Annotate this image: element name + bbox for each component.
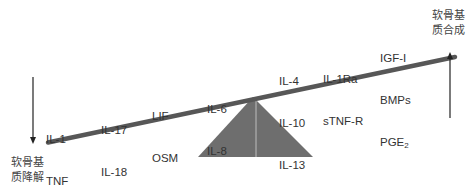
cytokine-label: IL-18: [101, 165, 127, 179]
cytokine-label: IL-1Ra: [323, 72, 363, 86]
cytokine-label-base: PGE: [380, 136, 404, 148]
cytokine-label: IL-13: [279, 158, 305, 172]
label-line: 软骨基: [432, 8, 465, 23]
cytokine-group-il6-il8: IL-6 IL-8: [207, 74, 227, 186]
cytokine-label: IL-17: [101, 123, 127, 137]
cytokine-group-lif-osm: LIF OSM: [152, 81, 178, 193]
down-arrow-icon: [30, 77, 36, 144]
cytokine-label: IL-6: [207, 102, 227, 116]
cytokine-label: sTNF-R: [323, 114, 363, 128]
cytokine-label: IL-8: [207, 144, 227, 158]
cytokine-label: TNF: [46, 174, 68, 188]
label-line: 质合成: [432, 23, 465, 38]
cytokine-label: IL-1: [46, 132, 68, 146]
cytokine-group-igf-bmps-pge2: IGF-I BMPs PGE2: [380, 23, 411, 181]
label-line: 质降解: [11, 170, 44, 185]
cytokine-group-il17-il18: IL-17 IL-18: [101, 95, 127, 196]
cytokine-group-il1-tnf: IL-1 TNF: [46, 104, 68, 196]
up-arrow-icon: [447, 52, 453, 118]
cytokine-group-il4-il10-il13: IL-4 IL-10 IL-13: [279, 46, 305, 196]
cytokine-group-il1ra-stnfr: IL-1Ra sTNF-R: [323, 44, 363, 156]
cytokine-label: OSM: [152, 151, 178, 165]
cytokine-label-subscript: 2: [404, 141, 408, 150]
cytokine-label: IGF-I: [380, 51, 411, 65]
cartilage-degradation-label: 软骨基 质降解: [11, 155, 44, 185]
label-line: 软骨基: [11, 155, 44, 170]
cytokine-label: PGE2: [380, 135, 411, 153]
cytokine-label: IL-10: [279, 116, 305, 130]
cytokine-label: LIF: [152, 109, 178, 123]
cartilage-synthesis-label: 软骨基 质合成: [432, 8, 465, 38]
cytokine-label: BMPs: [380, 93, 411, 107]
cytokine-label: IL-4: [279, 74, 305, 88]
seesaw-diagram: 软骨基 质降解 软骨基 质合成 IL-1 TNF IL-17 IL-18 LIF…: [0, 0, 473, 196]
